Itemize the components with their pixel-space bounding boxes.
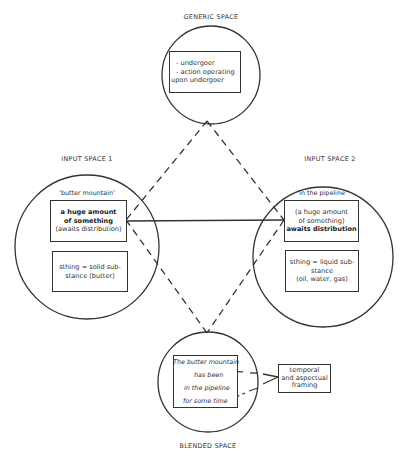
cross-space-mapping-line: [126, 220, 284, 221]
generic-space-box: - undergoer - action operating upon unde…: [169, 51, 241, 93]
input-2-box2-line-2: stance: [286, 267, 358, 276]
blend-line-4: for some time: [183, 397, 228, 405]
framing-arrow-bottom: [263, 377, 278, 384]
input-2-bold: awaits distribution: [285, 225, 358, 234]
dashed-input1-to-blend: [126, 220, 207, 333]
input-space-2-box-2: sthing = liquid sub- stance (oil, water,…: [285, 250, 359, 292]
input-1-box2-line-2: stance (butter): [53, 272, 127, 281]
input-space-1-expression: 'butter mountain': [55, 189, 119, 197]
generic-line-3: upon undergoer: [171, 76, 240, 85]
input-space-2-title: INPUT SPACE 2: [295, 155, 365, 163]
input-2-box2-line-3: (oil, water, gas): [286, 275, 358, 284]
dashed-input2-to-blend: [207, 220, 284, 333]
blend-line-1: The butter mountain: [173, 358, 239, 366]
generic-space-title: GENERIC SPACE: [171, 13, 251, 21]
input-2-box2-line-1: sthing = liquid sub-: [286, 258, 358, 267]
input-space-2-expression: 'in the pipeline': [292, 189, 352, 197]
input-space-1-title: INPUT SPACE 1: [47, 155, 127, 163]
input-space-2-box-1: (a huge amount of something) awaits dist…: [284, 200, 359, 242]
blend-line-2: has been: [194, 371, 223, 379]
input-1-bold-2: of something: [51, 217, 126, 226]
input-1-box2-line-1: sthing = solid sub-: [53, 263, 127, 272]
generic-line-2: - action operating: [176, 68, 240, 77]
input-1-bold-1: a huge amount: [51, 208, 126, 217]
dashed-generic-to-input1: [126, 121, 207, 220]
input-2-normal-1: (a huge amount: [285, 208, 358, 217]
dashed-generic-to-input2: [207, 121, 284, 220]
framing-arrow-top: [263, 374, 278, 377]
generic-line-1: - undergoer: [176, 59, 240, 68]
blend-line-3: in the pipeline: [184, 384, 230, 392]
blended-space-title: BLENDED SPACE: [170, 442, 246, 450]
input-1-normal: (awaits distribution): [51, 225, 126, 234]
input-2-normal-2: of something): [285, 217, 358, 226]
input-space-1-box-1: a huge amount of something (awaits distr…: [50, 200, 127, 242]
framing-box: temporal and aspectual framing: [278, 364, 331, 393]
framing-line-3: framing: [279, 382, 330, 390]
input-space-1-box-2: sthing = solid sub- stance (butter): [52, 251, 128, 292]
